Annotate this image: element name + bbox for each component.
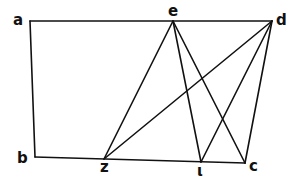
- label-d: d: [276, 11, 287, 29]
- label-b: b: [17, 149, 28, 167]
- line-d-z: [104, 21, 272, 159]
- lines: [30, 21, 272, 163]
- label-i: ι: [197, 162, 203, 180]
- line-d-c: [245, 21, 272, 163]
- label-z: z: [100, 158, 109, 176]
- label-a: a: [13, 11, 23, 29]
- line-d-i: [201, 21, 272, 162]
- label-c: c: [249, 157, 258, 175]
- line-a-b: [30, 21, 35, 157]
- line-b-c: [35, 157, 245, 163]
- label-e: e: [168, 2, 178, 20]
- line-e-z: [104, 21, 173, 159]
- line-e-c: [173, 21, 245, 163]
- geometry-diagram: a e d b z ι c: [0, 0, 303, 181]
- labels: a e d b z ι c: [13, 2, 287, 180]
